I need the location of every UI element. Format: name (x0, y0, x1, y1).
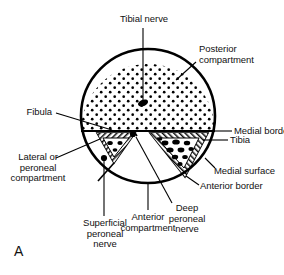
superficial-peroneal-nerve-marker (101, 155, 107, 161)
label-posterior-compartment: Posterior compartment (199, 44, 281, 65)
label-deep-peroneal-nerve: Deep peroneal nerve (160, 203, 214, 235)
leg-cross-section-figure: Tibial nerve Posterior compartment Fibul… (0, 0, 284, 275)
label-fibula: Fibula (4, 107, 52, 118)
label-anterior-border: Anterior border (200, 181, 278, 192)
label-tibial-nerve: Tibial nerve (108, 14, 180, 25)
deep-peroneal-nerve-marker (130, 131, 136, 137)
label-medial-surface: Medial surface (214, 166, 284, 177)
label-superficial-peroneal-nerve: Superficial peroneal nerve (68, 218, 142, 250)
panel-letter: A (14, 243, 23, 259)
label-lateral-peroneal-compartment: Lateral or peroneal compartment (2, 152, 74, 184)
label-tibia: Tibia (230, 135, 270, 146)
leader-anterior-border (186, 176, 199, 185)
